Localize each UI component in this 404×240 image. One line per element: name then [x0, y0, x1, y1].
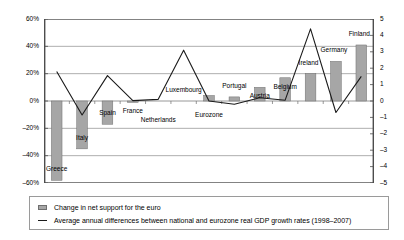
left-axis: 60%40%20%0%–20%–40%–60%: [0, 19, 39, 183]
category-label-luxembourg: Luxembourg: [166, 87, 202, 94]
chart-figure: 60%40%20%0%–20%–40%–60% 543210–1–2–3–4–5…: [0, 0, 404, 240]
category-label-ireland: Ireland: [299, 60, 319, 67]
right-axis-tick-label: 1: [380, 81, 384, 88]
category-label-finland: Finland: [349, 31, 370, 38]
right-axis-tick-label: 0: [380, 98, 384, 105]
right-axis: 543210–1–2–3–4–5: [380, 19, 404, 183]
legend-item-line-label: Average annual differences between natio…: [54, 217, 351, 224]
left-axis-tick-label: –60%: [22, 180, 39, 187]
bar-swatch-icon: [38, 205, 47, 210]
category-label-germany: Germany: [321, 47, 348, 54]
left-axis-tick-label: 40%: [26, 43, 39, 50]
left-axis-tick-label: –20%: [22, 125, 39, 132]
right-axis-tick-label: –1: [380, 114, 387, 121]
category-label-greece: Greece: [46, 166, 67, 173]
bar: [331, 61, 342, 101]
line-swatch-icon: [38, 220, 47, 221]
legend-item-bar-label: Change in net support for the euro: [54, 204, 161, 211]
right-axis-tick-label: –3: [380, 147, 387, 154]
left-axis-tick-label: 60%: [26, 16, 39, 23]
right-axis-tick-label: –4: [380, 163, 387, 170]
chart-canvas: [44, 19, 374, 183]
legend-item-bar: Change in net support for the euro: [38, 201, 161, 213]
right-axis-tick-label: 3: [380, 48, 384, 55]
category-label-spain: Spain: [99, 110, 116, 117]
right-axis-tick-label: –2: [380, 130, 387, 137]
bar: [356, 45, 367, 101]
bar: [229, 97, 240, 101]
plot-area: GreeceItalySpainFranceNetherlandsLuxembo…: [44, 19, 374, 183]
category-label-eurozone: Eurozone: [195, 112, 223, 119]
right-axis-tick-label: 5: [380, 16, 384, 23]
legend-item-line: Average annual differences between natio…: [38, 214, 351, 226]
bar: [305, 74, 316, 101]
right-axis-tick-label: –5: [380, 180, 387, 187]
right-axis-tick-label: 2: [380, 65, 384, 72]
category-label-austria: Austria: [250, 93, 270, 100]
category-label-italy: Italy: [76, 135, 88, 142]
category-label-belgium: Belgium: [273, 84, 296, 91]
left-axis-tick-label: 0%: [30, 98, 39, 105]
category-label-france: France: [123, 108, 143, 115]
chart-legend: Change in net support for the euro Avera…: [29, 196, 389, 230]
category-label-netherlands: Netherlands: [141, 117, 176, 124]
left-axis-tick-label: 20%: [26, 70, 39, 77]
right-axis-tick-label: 4: [380, 32, 384, 39]
left-axis-tick-label: –40%: [22, 152, 39, 159]
category-label-portugal: Portugal: [222, 83, 246, 90]
